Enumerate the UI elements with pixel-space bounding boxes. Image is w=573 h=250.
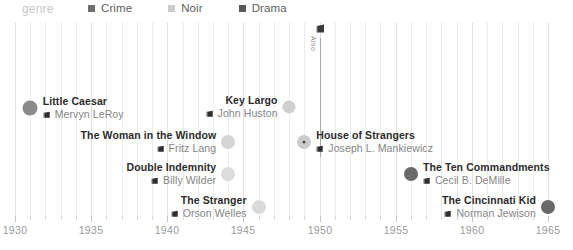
data-point-director-name: Billy Wilder: [163, 174, 216, 187]
legend-item-drama[interactable]: Drama: [239, 2, 287, 14]
axis-tick: [137, 216, 138, 220]
film-icon: [423, 176, 431, 185]
axis-tick-label: 1940: [155, 224, 180, 236]
axis-tick: [243, 216, 244, 222]
data-point-label[interactable]: Key LargoJohn Huston: [206, 94, 278, 120]
axis-tick: [365, 216, 366, 220]
data-point-title: Double Indemnity: [127, 161, 217, 174]
data-point-director: Joseph L. Mankiewicz: [316, 142, 433, 155]
film-icon: [43, 110, 51, 119]
axis-tick: [76, 216, 77, 220]
data-point-selected-marker: [303, 141, 306, 144]
film-icon: [316, 22, 325, 33]
axis-tick: [426, 216, 427, 220]
data-point-director: Billy Wilder: [151, 174, 216, 187]
axis-tick: [274, 216, 275, 220]
legend-item-label: Crime: [101, 2, 132, 14]
legend-item-crime[interactable]: Crime: [88, 2, 132, 14]
axis-tick: [472, 216, 473, 222]
data-point-label[interactable]: House of StrangersJoseph L. Mankiewicz: [316, 129, 433, 155]
data-point-director: Cecil B. DeMille: [423, 174, 511, 187]
data-point-dot[interactable]: [23, 100, 38, 115]
film-icon: [316, 144, 324, 153]
film-icon: [157, 144, 165, 153]
data-point-title: Key Largo: [225, 94, 277, 107]
data-point-title: The Cincinnati Kid: [442, 194, 536, 207]
legend-swatch-icon: [239, 5, 246, 12]
data-point-director-name: Mervyn LeRoy: [55, 108, 124, 121]
axis-tick-label: 1935: [79, 224, 104, 236]
axis-tick: [45, 216, 46, 220]
axis-tick: [106, 216, 107, 220]
data-point-director-name: Cecil B. DeMille: [435, 174, 511, 187]
axis-tick: [259, 216, 260, 220]
axis-tick-label: 1955: [384, 224, 409, 236]
film-icon: [206, 109, 214, 118]
axis-tick: [335, 216, 336, 220]
axis-tick: [61, 216, 62, 220]
data-point-director: John Huston: [206, 107, 278, 120]
axis-tick: [122, 216, 123, 220]
data-point-director-name: Fritz Lang: [169, 142, 217, 155]
axis-tick: [487, 216, 488, 220]
axis-tick-label: 1960: [460, 224, 485, 236]
data-point-dot[interactable]: [283, 100, 296, 113]
legend-items: CrimeNoirDrama: [88, 2, 323, 14]
legend-title: genre: [22, 2, 54, 16]
data-point-title: Little Caesar: [43, 95, 107, 108]
data-point-label[interactable]: The Woman in the WindowFritz Lang: [81, 129, 217, 155]
axis-tick: [152, 216, 153, 220]
axis-tick: [213, 216, 214, 220]
data-point-dot[interactable]: [252, 200, 266, 214]
data-point-label[interactable]: The Ten CommandmentsCecil B. DeMille: [423, 161, 550, 187]
data-point-director-name: John Huston: [218, 107, 278, 120]
data-point-title: The Ten Commandments: [423, 161, 550, 174]
axis-tick: [518, 216, 519, 220]
x-axis: 19301935194019451950195519601965: [0, 216, 573, 250]
axis-tick: [91, 216, 92, 222]
data-point-title: House of Strangers: [316, 129, 415, 142]
axis-tick: [30, 216, 31, 220]
axis-tick: [320, 216, 321, 222]
legend-swatch-icon: [88, 5, 95, 12]
axis-tick: [304, 216, 305, 220]
data-point-dot[interactable]: [541, 200, 555, 214]
axis-tick: [411, 216, 412, 220]
axis-tick: [548, 216, 549, 222]
axis-tick: [350, 216, 351, 220]
axis-tick-label: 1930: [3, 224, 28, 236]
annotation-label: Also: [310, 36, 317, 51]
legend-item-noir[interactable]: Noir: [168, 2, 203, 14]
axis-tick: [198, 216, 199, 220]
legend-item-label: Drama: [252, 2, 287, 14]
axis-tick: [396, 216, 397, 222]
data-point-dot[interactable]: [221, 135, 235, 149]
film-icon: [151, 176, 159, 185]
axis-tick: [228, 216, 229, 220]
axis-tick: [15, 216, 16, 222]
data-point-director: Mervyn LeRoy: [43, 108, 124, 121]
legend-swatch-icon: [168, 5, 175, 12]
axis-tick: [457, 216, 458, 220]
axis-tick-label: 1950: [308, 224, 333, 236]
legend: genre CrimeNoirDrama: [0, 0, 573, 22]
data-point-director: Fritz Lang: [157, 142, 217, 155]
data-point-label[interactable]: Double IndemnityBilly Wilder: [127, 161, 217, 187]
axis-tick-label: 1965: [536, 224, 561, 236]
data-point-dot[interactable]: [221, 167, 235, 181]
data-point-dot[interactable]: [404, 167, 418, 181]
axis-tick: [502, 216, 503, 220]
axis-tick: [441, 216, 442, 220]
timeline-plot: Also Little CaesarMervyn LeRoyKey LargoJ…: [0, 22, 573, 250]
axis-tick: [289, 216, 290, 220]
axis-tick: [167, 216, 168, 222]
axis-tick: [380, 216, 381, 220]
data-point-label[interactable]: Little CaesarMervyn LeRoy: [43, 95, 124, 121]
data-point-title: The Woman in the Window: [81, 129, 217, 142]
axis-tick-label: 1945: [231, 224, 256, 236]
data-point-title: The Stranger: [181, 194, 247, 207]
legend-item-label: Noir: [181, 2, 203, 14]
axis-tick: [533, 216, 534, 220]
axis-tick: [183, 216, 184, 220]
data-point-director-name: Joseph L. Mankiewicz: [328, 142, 433, 155]
